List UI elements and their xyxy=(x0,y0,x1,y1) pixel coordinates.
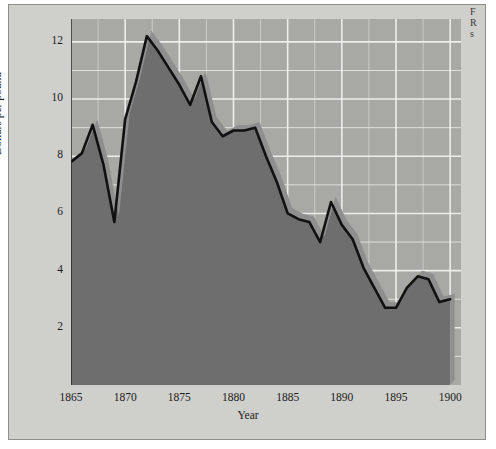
chart-figure: Dollars per pound 24681012 186 xyxy=(8,4,486,440)
x-tick-label-1885: 1885 xyxy=(266,391,310,403)
y-tick-label-4: 4 xyxy=(39,263,63,275)
area-side-face xyxy=(450,294,455,385)
y-tick-label-12: 12 xyxy=(39,34,63,46)
x-tick-label-1900: 1900 xyxy=(428,391,472,403)
y-tick-label-8: 8 xyxy=(39,148,63,160)
x-tick-label-1880: 1880 xyxy=(212,391,256,403)
x-tick-label-1875: 1875 xyxy=(157,391,201,403)
x-tick-label-1865: 1865 xyxy=(49,391,93,403)
margin-note: F R s xyxy=(470,6,496,39)
plot-area xyxy=(71,19,461,385)
y-tick-label-6: 6 xyxy=(39,205,63,217)
x-axis-title: Year xyxy=(9,409,487,421)
area-chart-svg xyxy=(71,19,461,385)
x-tick-label-1895: 1895 xyxy=(374,391,418,403)
margin-note-line-2: R xyxy=(470,17,496,28)
y-tick-label-2: 2 xyxy=(39,320,63,332)
x-tick-label-1870: 1870 xyxy=(103,391,147,403)
margin-note-line-1: F xyxy=(470,6,496,17)
y-axis-title: Dollars per pound xyxy=(0,72,3,155)
x-tick-label-1890: 1890 xyxy=(320,391,364,403)
margin-note-line-3: s xyxy=(470,28,496,39)
y-tick-label-10: 10 xyxy=(39,91,63,103)
